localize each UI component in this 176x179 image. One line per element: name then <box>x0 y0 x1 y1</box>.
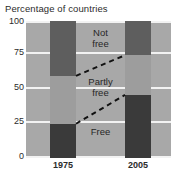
x-tick-2005: 2005 <box>118 160 158 170</box>
bar-1975-segment-free <box>50 124 76 158</box>
plot-area: Not free Partly free Free <box>26 21 171 158</box>
y-tick-100: 100 <box>0 16 24 26</box>
y-axis: 100 75 50 25 0 <box>0 21 24 158</box>
chart-figure: Percentage of countries 100 75 50 25 0 N… <box>0 0 176 179</box>
bar-2005 <box>125 21 151 158</box>
y-tick-75: 75 <box>0 47 24 57</box>
y-tick-50: 50 <box>0 82 24 92</box>
bar-1975-segment-not-free <box>50 21 76 76</box>
label-free: Free <box>76 126 125 137</box>
bar-1975 <box>50 21 76 158</box>
y-tick-25: 25 <box>0 116 24 126</box>
bar-2005-segment-free <box>125 95 151 158</box>
bar-1975-segment-partly-free <box>50 76 76 124</box>
y-tick-0: 0 <box>0 151 24 161</box>
connector-free-boundary <box>76 95 125 124</box>
label-partly-free: Partly free <box>76 76 125 98</box>
x-tick-1975: 1975 <box>43 160 83 170</box>
label-not-free: Not free <box>76 27 125 49</box>
bar-2005-segment-partly-free <box>125 55 151 95</box>
chart-title: Percentage of countries <box>5 3 108 14</box>
bar-2005-segment-not-free <box>125 21 151 55</box>
connector-not-free-boundary <box>76 55 125 76</box>
